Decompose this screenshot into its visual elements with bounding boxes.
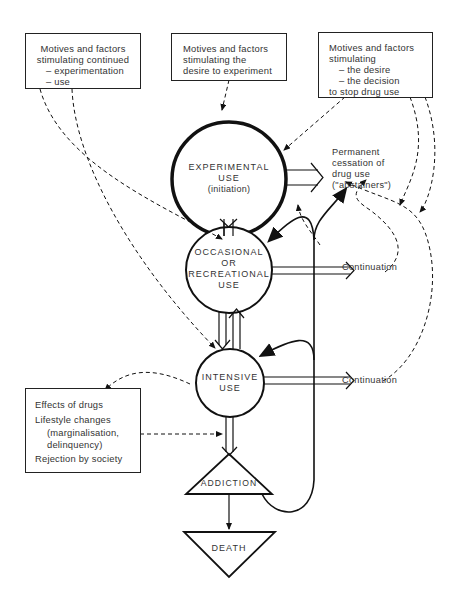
continued-use-factors-box: Motives and factors stimulating continue… <box>25 33 141 89</box>
occasional-use-label: OCCASIONAL OR RECREATIONAL USE <box>188 247 269 291</box>
stage-label-line: USE <box>202 383 259 394</box>
box-item: – experimentation <box>26 65 140 76</box>
effects-line: Effects of drugs <box>35 397 140 412</box>
feedback-loop <box>262 190 345 512</box>
effects-line: Lifestyle changes <box>35 412 140 427</box>
stage-label-line: EXPERIMENTAL <box>189 162 270 173</box>
stage-label-line: INTENSIVE <box>202 372 259 383</box>
box-line: Motives and factors <box>329 42 432 53</box>
stop-use-factors-box: Motives and factors stimulating – the de… <box>318 32 433 98</box>
effects-subline: delinquency) <box>35 438 140 451</box>
box-line: stimulating the <box>183 54 286 65</box>
experimental-use-label: EXPERIMENTAL USE (initiation) <box>189 162 270 195</box>
death-node <box>184 532 275 577</box>
experiment-desire-factors-box: Motives and factors stimulating the desi… <box>171 33 287 81</box>
box-title-line: Motives and factors <box>26 43 140 54</box>
cessation-line: Permanent <box>332 147 391 158</box>
stage-label-line: OCCASIONAL <box>188 247 269 258</box>
stage-label-line: OR <box>188 258 269 269</box>
box-title-line: stimulating continued <box>26 54 140 65</box>
effects-box: Effects of drugs Lifestyle changes (marg… <box>25 388 141 473</box>
continuation-label-occasional: Continuation <box>342 262 397 273</box>
box-line: to stop drug use <box>329 86 432 97</box>
effects-line: Rejection by society <box>35 451 140 466</box>
death-label: DEATH <box>212 543 247 554</box>
cessation-line: ("abstainers") <box>332 180 391 191</box>
box-item: – use <box>26 76 140 87</box>
stage-label-line: RECREATIONAL <box>188 269 269 280</box>
continuation-label-intensive: Continuation <box>342 375 397 386</box>
box-line: desire to experiment <box>183 65 286 76</box>
cessation-line: drug use <box>332 169 391 180</box>
addiction-label: ADDICTION <box>201 478 257 489</box>
box-item: – the decision <box>329 75 432 86</box>
cessation-label: Permanent cessation of drug use ("abstai… <box>332 147 391 191</box>
box-line: Motives and factors <box>183 43 286 54</box>
box-line: stimulating <box>329 53 432 64</box>
stage-label-line: (initiation) <box>189 184 270 195</box>
box-item: – the desire <box>329 64 432 75</box>
stage-label-line: USE <box>188 280 269 291</box>
stage-label-line: USE <box>189 173 270 184</box>
effects-subline: (marginalisation, <box>35 427 140 438</box>
intensive-use-label: INTENSIVE USE <box>202 372 259 394</box>
cessation-line: cessation of <box>332 158 391 169</box>
